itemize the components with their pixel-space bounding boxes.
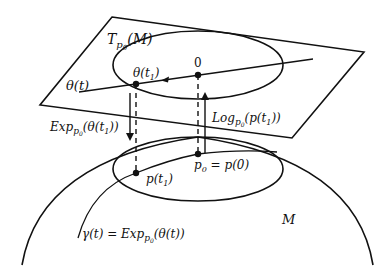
p-t1-label: p(t1) bbox=[146, 172, 173, 188]
point-p-t1 bbox=[133, 170, 139, 176]
exp-map-label: Expp0(θ(t1)) bbox=[49, 120, 119, 137]
theta-t1-label: θ(t1) bbox=[133, 66, 160, 82]
theta-t-label: θ(t) bbox=[66, 78, 89, 93]
geodesic-label: γ(t) = Expp0(θ(t)) bbox=[82, 227, 185, 244]
point-p0 bbox=[195, 151, 201, 157]
origin-label: 0 bbox=[194, 56, 202, 70]
point-theta-t1 bbox=[133, 81, 139, 87]
manifold-label: M bbox=[281, 212, 296, 227]
p0-label: p0 = p(0) bbox=[194, 158, 249, 174]
point-origin bbox=[195, 72, 201, 78]
diagram-canvas: Tp0(M) θ(t) θ(t1) 0 Expp0(θ(t1)) Logp0(p… bbox=[0, 0, 390, 278]
